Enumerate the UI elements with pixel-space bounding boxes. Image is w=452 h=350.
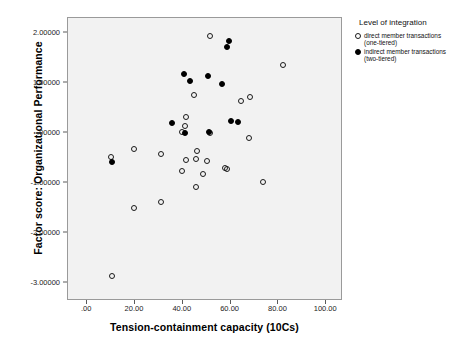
legend-item-sublabel: (one-tiered) (364, 39, 441, 46)
y-tick-label: -3.00000 (5, 278, 60, 287)
data-point (247, 94, 253, 100)
data-point (204, 158, 210, 164)
data-point (219, 81, 225, 87)
x-tick-mark (230, 300, 231, 304)
data-point (131, 146, 137, 152)
y-tick-label: 1.00000 (5, 78, 60, 87)
data-point (194, 148, 200, 154)
data-point (206, 129, 212, 135)
data-point (224, 166, 230, 172)
data-point (131, 205, 137, 211)
x-tick-mark (134, 300, 135, 304)
x-tick-mark (86, 300, 87, 304)
data-point (158, 151, 164, 157)
x-tick-mark (325, 300, 326, 304)
plot-frame (67, 17, 342, 300)
data-point (182, 130, 188, 136)
x-tick-mark (277, 300, 278, 304)
legend-title: Level of integration (359, 18, 451, 27)
data-point (235, 119, 241, 125)
x-tick-label: 100.00 (295, 304, 355, 313)
open-circle-icon (355, 33, 361, 39)
data-point (181, 71, 187, 77)
data-point (280, 62, 286, 68)
data-point (179, 168, 185, 174)
legend: Level of integration direct member trans… (355, 18, 451, 64)
filled-circle-icon (355, 49, 361, 55)
legend-item[interactable]: indirect member transactions(two-tiered) (355, 48, 451, 63)
data-point (205, 73, 211, 79)
data-point (169, 120, 175, 126)
data-point (193, 184, 199, 190)
data-point (226, 38, 232, 44)
data-point (187, 78, 193, 84)
data-point (207, 33, 213, 39)
data-point (224, 44, 230, 50)
data-point (109, 273, 115, 279)
data-point (228, 118, 234, 124)
x-tick-mark (182, 300, 183, 304)
y-tick-label: -1.00000 (5, 178, 60, 187)
plot-area (68, 18, 341, 299)
y-tick-label: -2.00000 (5, 228, 60, 237)
data-point (238, 98, 244, 104)
data-point (158, 199, 164, 205)
data-point (183, 157, 189, 163)
data-point (246, 135, 252, 141)
data-point (191, 92, 197, 98)
y-tick-label: .00000 (5, 128, 60, 137)
legend-item[interactable]: direct member transactions(one-tiered) (355, 32, 451, 47)
legend-entries: direct member transactions(one-tiered)in… (355, 32, 451, 63)
scatter-chart: Factor score: Organizational Performance… (0, 0, 452, 350)
data-point (109, 159, 115, 165)
legend-item-label: direct member transactions(one-tiered) (364, 32, 441, 47)
y-tick-label: 2.00000 (5, 28, 60, 37)
data-point (260, 179, 266, 185)
data-point (200, 171, 206, 177)
data-point (193, 156, 199, 162)
legend-item-label: indirect member transactions(two-tiered) (364, 48, 446, 63)
data-point (183, 114, 189, 120)
x-axis-title: Tension-containment capacity (10Cs) (67, 321, 342, 333)
legend-item-sublabel: (two-tiered) (364, 55, 446, 62)
